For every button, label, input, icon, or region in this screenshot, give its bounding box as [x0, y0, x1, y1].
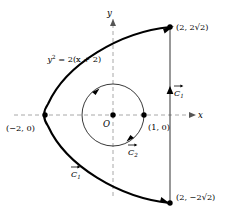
- point-dot-one-zero: [141, 112, 146, 117]
- x-axis-arrowhead: [189, 112, 196, 118]
- math-diagram: x y O y2 = 2(x + 2) (−2, 0) (1, 0) (2, 2…: [0, 0, 242, 216]
- c2-vector-arrowhead: [134, 144, 137, 147]
- axes-group: [14, 19, 196, 196]
- point-dot-vertex: [42, 112, 47, 117]
- origin-label: O: [103, 119, 110, 129]
- point-dot-origin: [110, 112, 115, 117]
- c1-right-vector-arrowhead: [180, 85, 183, 88]
- label-c1-right-group: C1: [174, 85, 184, 99]
- label-c2: C2: [128, 147, 138, 158]
- point-dot-bottom: [167, 200, 172, 205]
- x-axis-label: x: [198, 110, 203, 120]
- label-point-circle-right: (1, 0): [148, 122, 170, 132]
- label-c1-bottom: C1: [71, 169, 81, 180]
- c1-bottom-subscript: 1: [77, 174, 81, 180]
- label-point-top: (2, 2√2): [176, 22, 208, 32]
- figure-container: x y O y2 = 2(x + 2) (−2, 0) (1, 0) (2, 2…: [0, 0, 242, 216]
- c2-subscript: 2: [133, 152, 138, 158]
- label-c1-right: C1: [174, 88, 184, 99]
- label-c1-bottom-group: C1: [71, 166, 81, 180]
- c1-right-subscript: 1: [180, 93, 184, 99]
- label-point-bottom: (2, −2√2): [176, 192, 215, 202]
- label-c2-group: C2: [128, 144, 138, 158]
- equation-remainder: = 2(x + 2): [56, 54, 102, 64]
- y-axis-arrowhead: [110, 19, 116, 26]
- equation-label: y2 = 2(x + 2): [24, 54, 119, 64]
- vertical-segment-c1: [167, 27, 174, 203]
- y-axis-label: y: [106, 8, 112, 18]
- equation-label-group: y2 = 2(x + 2): [24, 54, 119, 64]
- vertical-segment-arrowhead: [167, 86, 174, 94]
- label-point-vertex: (−2, 0): [6, 123, 35, 133]
- point-dot-top: [167, 24, 172, 29]
